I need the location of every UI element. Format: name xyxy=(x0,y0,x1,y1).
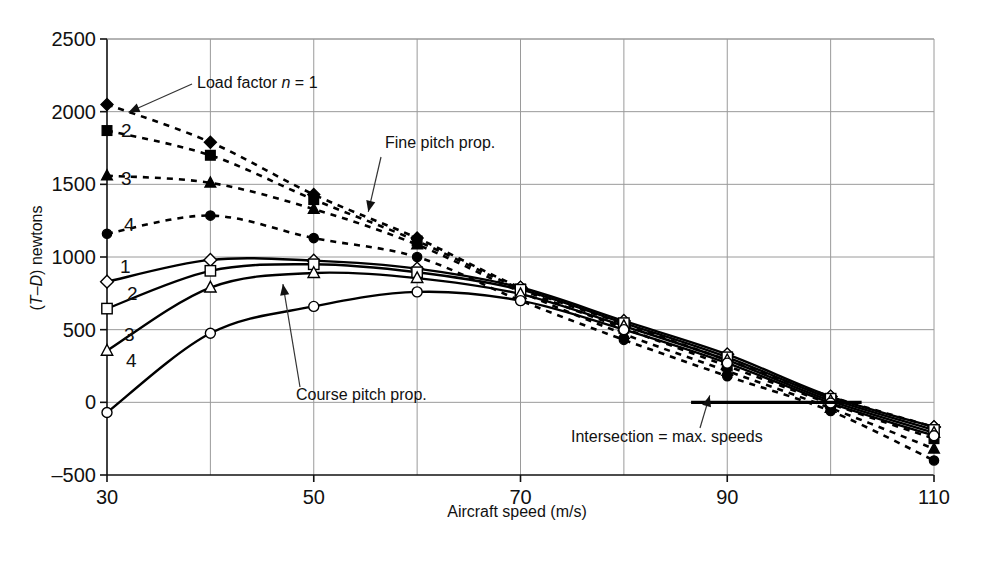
series-inline-label-fine-pitch: 3 xyxy=(121,168,132,189)
annotation-load-factor-prefix: Load factor xyxy=(197,74,282,91)
series-inline-label-course-pitch: 1 xyxy=(120,256,131,277)
y-axis-title-close: ) newtons xyxy=(28,206,45,275)
series-inline-label-course-pitch: 2 xyxy=(127,283,138,304)
data-point-marker-circle-filled xyxy=(309,234,318,243)
annotation-load-factor-suffix: = 1 xyxy=(290,74,317,91)
chart-figure: –50005001000150020002500 30507090110 234… xyxy=(0,0,982,561)
aircraft-thrust-minus-drag-chart: –50005001000150020002500 30507090110 234… xyxy=(0,0,982,561)
data-point-marker-circle-open xyxy=(412,287,422,297)
data-point-marker-circle-open xyxy=(205,328,215,338)
x-axis-tick-label: 90 xyxy=(716,486,738,508)
y-axis-tick-label: 0 xyxy=(85,391,96,413)
annotation-course-pitch: Course pitch prop. xyxy=(296,386,427,403)
data-point-marker-circle-filled xyxy=(206,211,215,220)
annotation-fine-pitch: Fine pitch prop. xyxy=(385,134,495,151)
series-inline-label-course-pitch: 4 xyxy=(126,350,137,371)
annotation-load-factor-symbol: n xyxy=(282,74,291,91)
series-inline-label-fine-pitch: 4 xyxy=(124,214,135,235)
annotation-intersection-suffix: max. speeds xyxy=(668,428,763,445)
data-point-marker-square-filled xyxy=(206,150,216,160)
x-axis-tick-label: 50 xyxy=(303,486,325,508)
x-axis-title: Aircraft speed (m/s) xyxy=(447,503,587,520)
data-point-marker-circle-filled xyxy=(413,252,422,261)
y-axis-tick-label: 500 xyxy=(63,319,96,341)
y-axis-tick-label: 1500 xyxy=(52,173,97,195)
annotation-load-factor: Load factor n = 1 xyxy=(197,74,318,91)
svg-text:(T–D) newtons: (T–D) newtons xyxy=(28,206,45,311)
x-axis-tick-label: 110 xyxy=(918,486,950,508)
data-point-marker-circle-filled xyxy=(723,372,732,381)
data-point-marker-circle-filled xyxy=(102,229,111,238)
data-point-marker-circle-filled xyxy=(929,456,938,465)
data-point-marker-square-open xyxy=(205,266,215,276)
annotation-intersection-symbol: = xyxy=(658,428,667,445)
annotation-intersection: Intersection = max. speeds xyxy=(571,428,763,445)
data-point-marker-circle-open xyxy=(309,301,319,311)
data-point-marker-circle-open xyxy=(929,431,939,441)
series-inline-label-course-pitch: 3 xyxy=(124,324,135,345)
data-point-marker-circle-open xyxy=(619,325,629,335)
y-axis-tick-label: 2000 xyxy=(52,101,97,123)
annotation-intersection-prefix: Intersection xyxy=(571,428,658,445)
data-point-marker-circle-filled xyxy=(619,335,628,344)
data-point-marker-square-open xyxy=(102,303,112,313)
y-axis-tick-label: –500 xyxy=(52,464,97,486)
series-inline-label-fine-pitch: 2 xyxy=(121,120,132,141)
y-axis-tick-label: 2500 xyxy=(52,28,97,50)
y-axis-title-d: D xyxy=(28,274,45,286)
data-point-marker-circle-open xyxy=(722,358,732,368)
y-axis-title-dash: – xyxy=(28,286,45,295)
y-axis-title: (T–D) newtons xyxy=(28,206,45,311)
y-axis-tick-label: 1000 xyxy=(52,246,97,268)
data-point-marker-circle-open xyxy=(516,296,526,306)
data-point-marker-circle-open xyxy=(102,408,112,418)
data-point-marker-square-filled xyxy=(102,126,112,136)
x-axis-tick-label: 30 xyxy=(96,486,118,508)
